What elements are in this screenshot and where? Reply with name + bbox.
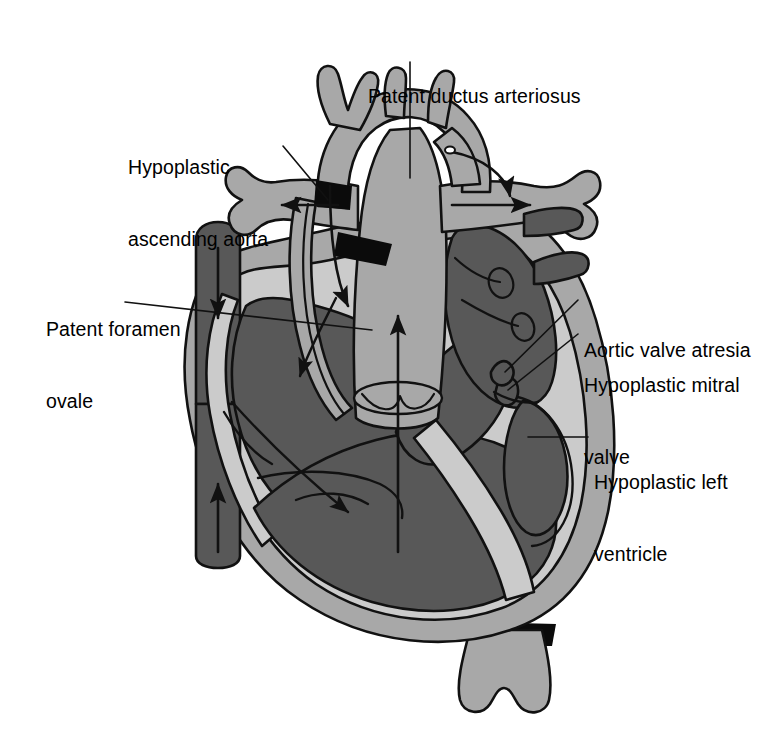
label-hyp-aao-line-2: ascending aorta <box>128 227 268 251</box>
label-patent-ductus-arteriosus: Patent ductus arteriosus <box>368 36 581 156</box>
heart-diagram-figure: Patent ductus arteriosus Hypoplastic asc… <box>0 0 770 750</box>
descending-aorta <box>459 630 551 712</box>
label-hlv-line-1: Hypoplastic left <box>594 470 728 494</box>
label-pda-line-1: Patent ductus arteriosus <box>368 84 581 108</box>
label-hlv-line-2: ventricle <box>594 542 728 566</box>
label-hypoplastic-left-ventricle: Hypoplastic left ventricle <box>594 422 728 614</box>
label-patent-foramen-ovale: Patent foramen ovale <box>46 269 181 461</box>
label-pfo-line-1: Patent foramen <box>46 317 181 341</box>
aortic-valve-atresia <box>491 361 514 385</box>
label-hyp-aao-line-1: Hypoplastic <box>128 155 268 179</box>
label-pfo-line-2: ovale <box>46 389 181 413</box>
label-hmv-line-1: Hypoplastic mitral <box>584 373 740 397</box>
